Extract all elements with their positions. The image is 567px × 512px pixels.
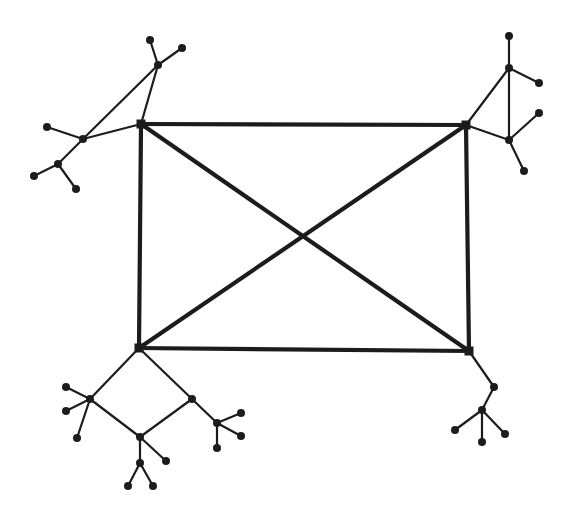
edge [47, 127, 83, 139]
edge [509, 68, 539, 83]
node-dot [505, 64, 513, 72]
edge [192, 399, 217, 423]
edge [139, 348, 192, 399]
node-dot [478, 438, 486, 446]
node-dot [451, 426, 459, 434]
core-node-square [135, 344, 144, 353]
edge [140, 399, 192, 437]
node-dot [149, 482, 157, 490]
node-dot [237, 432, 245, 440]
graph-diagram [0, 0, 567, 512]
node-dot [62, 383, 70, 391]
core-edge [466, 125, 469, 351]
node-dot [79, 135, 87, 143]
edge [58, 139, 83, 164]
edge [217, 423, 241, 436]
edge [34, 164, 58, 176]
node-dot [136, 433, 144, 441]
edge [466, 125, 509, 140]
node-dot [501, 430, 509, 438]
edge [482, 410, 505, 434]
edge [509, 140, 524, 171]
node-dot [124, 482, 132, 490]
edge [469, 351, 494, 387]
node-dot [54, 160, 62, 168]
gadget-edges [34, 36, 539, 486]
node-dot [72, 185, 80, 193]
edge [90, 399, 140, 437]
core-edge [139, 348, 469, 351]
edge [466, 68, 509, 125]
node-dot [478, 406, 486, 414]
edge [58, 164, 76, 189]
node-dot [136, 459, 144, 467]
node-dot [213, 444, 221, 452]
node-dot [73, 434, 81, 442]
edge [455, 410, 482, 430]
node-dot [505, 32, 513, 40]
node-dot [43, 123, 51, 131]
node-dot [178, 44, 186, 52]
node-dot [162, 457, 170, 465]
node-dot [146, 36, 154, 44]
node-dot [490, 383, 498, 391]
core-edge [139, 124, 141, 348]
node-dot [535, 109, 543, 117]
node-dot [505, 136, 513, 144]
core-node-square [465, 347, 474, 356]
core-edge [141, 124, 466, 125]
edge [509, 113, 539, 140]
node-dot [237, 409, 245, 417]
core-node-square [137, 120, 146, 129]
node-dot [62, 407, 70, 415]
edge [66, 387, 90, 399]
node-dot [30, 172, 38, 180]
node-dot [86, 395, 94, 403]
node-dot [535, 79, 543, 87]
edge [140, 437, 166, 461]
node-dot [520, 167, 528, 175]
core-node-square [462, 121, 471, 130]
node-dot [154, 61, 162, 69]
edge [158, 48, 182, 65]
node-dot [188, 395, 196, 403]
edge [90, 348, 139, 399]
node-dot [213, 419, 221, 427]
core-k4-edges [139, 124, 469, 351]
